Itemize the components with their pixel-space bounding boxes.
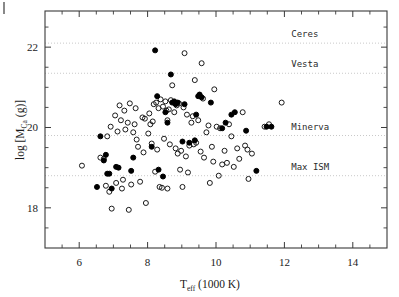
annotation-vesta: Vesta <box>291 59 318 69</box>
data-point-open <box>222 148 227 153</box>
data-point-open <box>125 120 130 125</box>
data-point-filled <box>163 110 168 115</box>
data-point-open <box>131 130 136 135</box>
x-tick-label: 8 <box>145 256 151 268</box>
data-point-open <box>136 144 141 149</box>
data-point-filled <box>149 144 154 149</box>
data-point-filled <box>101 158 106 163</box>
data-point-open <box>184 112 189 117</box>
data-point-filled <box>187 140 192 145</box>
data-point-open <box>163 99 168 104</box>
data-point-open <box>202 155 207 160</box>
data-point-open <box>237 156 242 161</box>
data-point-filled <box>107 171 112 176</box>
data-point-open <box>198 149 203 154</box>
data-point-open <box>240 110 245 115</box>
data-point-filled <box>223 120 228 125</box>
data-point-open <box>279 100 284 105</box>
data-point-open <box>207 180 212 185</box>
data-point-filled <box>160 174 165 179</box>
data-point-open <box>179 148 184 153</box>
data-point-filled <box>182 102 187 107</box>
data-point-filled <box>103 152 108 157</box>
data-point-open <box>114 180 119 185</box>
y-tick-label: 22 <box>27 41 38 53</box>
data-point-filled <box>109 186 114 191</box>
y-axis-ticks <box>45 27 387 228</box>
data-point-filled <box>244 128 249 133</box>
data-point-open <box>209 144 214 149</box>
data-points-filled <box>94 48 273 191</box>
y-tick-label: 18 <box>27 202 39 214</box>
data-point-open <box>79 163 84 168</box>
x-axis-tick-labels: 68101214 <box>76 256 358 268</box>
data-point-open <box>105 134 110 139</box>
data-point-open <box>133 106 138 111</box>
x-tick-label: 6 <box>76 256 82 268</box>
data-point-open <box>211 159 216 164</box>
data-point-open <box>129 182 134 187</box>
data-point-open <box>134 137 139 142</box>
data-point-open <box>138 179 143 184</box>
data-point-open <box>103 183 108 188</box>
data-point-open <box>119 186 124 191</box>
data-point-open <box>204 130 209 135</box>
data-point-open <box>178 167 183 172</box>
data-point-open <box>245 147 250 152</box>
data-point-open <box>155 147 160 152</box>
data-point-filled <box>208 100 213 105</box>
data-point-open <box>185 170 190 175</box>
data-point-filled <box>264 124 269 129</box>
x-axis-title: Teff (1000 K) <box>180 278 240 293</box>
data-point-open <box>183 154 188 159</box>
data-point-open <box>220 162 225 167</box>
data-point-open <box>122 108 127 113</box>
data-point-open <box>172 110 177 115</box>
annotation-max-ism: Max ISM <box>291 162 330 172</box>
data-point-open <box>212 87 217 92</box>
data-point-open <box>120 177 125 182</box>
data-point-open <box>143 201 148 206</box>
plot-canvas: 68101214 182022 CeresVestaMinervaMax ISM… <box>0 0 399 297</box>
x-tick-label: 12 <box>279 256 290 268</box>
data-point-open <box>246 176 251 181</box>
y-axis-title-main-a: log [M <box>14 128 27 160</box>
data-point-open <box>196 118 201 123</box>
data-point-filled <box>165 120 170 125</box>
x-axis-title-rest: (1000 K) <box>195 278 240 291</box>
data-point-open <box>182 51 187 56</box>
data-point-open <box>146 131 151 136</box>
data-point-filled <box>116 165 121 170</box>
data-point-open <box>115 129 120 134</box>
data-point-open <box>118 118 123 123</box>
data-point-filled <box>192 138 197 143</box>
data-point-open <box>117 103 122 108</box>
data-point-open <box>189 120 194 125</box>
data-point-filled <box>168 72 173 77</box>
data-point-open <box>173 146 178 151</box>
data-point-filled <box>180 139 185 144</box>
data-point-filled <box>232 110 237 115</box>
data-point-open <box>127 101 132 106</box>
data-point-open <box>167 142 172 147</box>
data-point-filled <box>129 168 134 173</box>
data-point-filled <box>131 155 136 160</box>
data-point-filled <box>98 134 103 139</box>
data-point-open <box>147 111 152 116</box>
data-point-open <box>113 113 118 118</box>
data-point-open <box>108 124 113 129</box>
data-point-filled <box>156 167 161 172</box>
data-point-filled <box>269 124 274 129</box>
data-point-open <box>180 184 185 189</box>
data-point-open <box>162 136 167 141</box>
data-point-open <box>123 127 128 132</box>
data-point-open <box>109 206 114 211</box>
x-axis-title-main: T <box>180 278 187 290</box>
data-point-open <box>126 207 131 212</box>
y-axis-title-main-b: (g)] <box>14 100 27 120</box>
data-point-filled <box>94 184 99 189</box>
data-point-open <box>231 164 236 169</box>
svg-text:Teff (1000 K): Teff (1000 K) <box>180 278 240 293</box>
annotation-minerva: Minerva <box>291 122 329 132</box>
data-point-open <box>249 151 254 156</box>
